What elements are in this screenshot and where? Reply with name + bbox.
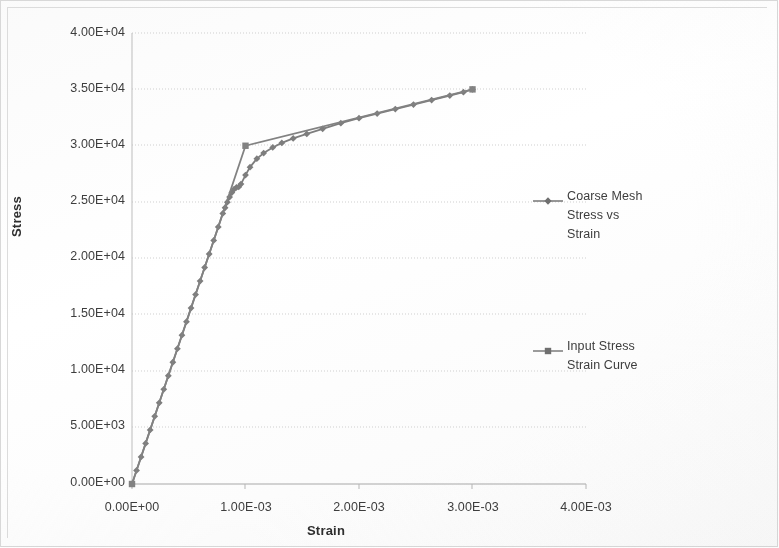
data-point-marker (242, 143, 248, 149)
plot-area (1, 1, 779, 548)
legend-label-line1: Coarse Mesh (567, 189, 642, 203)
data-point-marker (129, 481, 135, 487)
legend-label-line1: Input Stress (567, 339, 635, 353)
legend-label-line2: Strain Curve (567, 358, 638, 372)
legend-item-coarse-mesh[interactable]: Coarse Mesh Stress vs Strain (533, 187, 667, 244)
legend-label-input-curve: Input Stress Strain Curve (567, 337, 667, 375)
diamond-marker-icon (533, 192, 563, 210)
legend-label-coarse-mesh: Coarse Mesh Stress vs Strain (567, 187, 667, 244)
legend-item-input-curve[interactable]: Input Stress Strain Curve (533, 337, 667, 375)
legend-label-line2: Stress vs (567, 208, 619, 222)
legend-label-line3: Strain (567, 227, 600, 241)
data-point-marker (290, 135, 297, 142)
axis-lines (132, 33, 586, 489)
data-point-marker (469, 86, 475, 92)
square-marker-icon (533, 342, 563, 360)
gridlines (132, 33, 586, 427)
